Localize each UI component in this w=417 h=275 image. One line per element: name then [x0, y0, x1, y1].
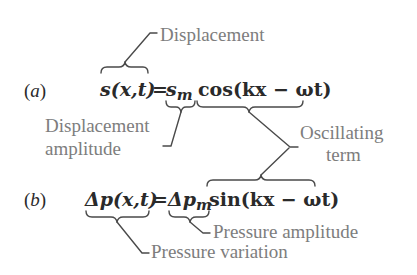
underbrace-pressure-variation [86, 211, 149, 222]
sound-wave-equations-diagram: Displacement (a) s(x,t) = sm cos(kx − ωt… [0, 0, 417, 275]
leader-pressure-amplitude [190, 222, 210, 233]
label-oscillating-line2: term [326, 145, 361, 164]
sine-term: sin(kx − ωt) [209, 190, 339, 209]
equation-tag-b: (b) [24, 190, 46, 209]
cosine-term: cos(kx − ωt) [198, 80, 331, 99]
leader-oscillating-a [249, 112, 298, 147]
pressure-variation-function: Δp(x,t) [85, 190, 158, 209]
leader-pressure-variation [117, 222, 149, 253]
overbrace-sin-term [207, 175, 315, 186]
tag-letter: a [30, 80, 40, 101]
label-displacement-amplitude-line1: Displacement [45, 116, 149, 135]
label-pressure-variation: Pressure variation [151, 242, 288, 261]
overbrace-displacement [101, 62, 148, 73]
leader-oscillating-b [261, 148, 289, 175]
pressure-amplitude-symbol: Δpm [168, 190, 212, 209]
label-pressure-amplitude: Pressure amplitude [213, 222, 358, 241]
equals-sign: = [152, 190, 168, 209]
displacement-amplitude-symbol: sm [166, 80, 193, 99]
equation-tag-a: (a) [24, 81, 46, 100]
label-displacement-amplitude-line2: amplitude [45, 139, 121, 158]
label-displacement: Displacement [160, 25, 264, 44]
tag-paren-close: ) [40, 80, 46, 101]
leader-displacement-amplitude [163, 112, 181, 146]
underbrace-cos-term [197, 101, 303, 112]
label-oscillating-line1: Oscillating [300, 123, 383, 142]
displacement-function: s(x,t) [100, 80, 155, 99]
tag-paren-close: ) [40, 189, 46, 210]
tag-letter: b [30, 189, 40, 210]
leader-displacement [125, 33, 157, 62]
